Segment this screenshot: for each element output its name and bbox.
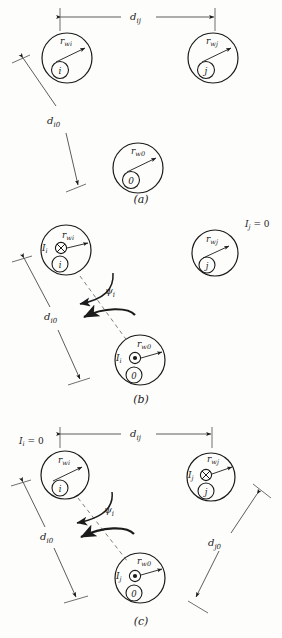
label-core-i-b: i (59, 260, 62, 270)
label-core-i-c: i (59, 484, 62, 494)
figure-conductor-geometry: dij i rwi j rwj 0 rw0 di0 (a) i (0, 0, 282, 638)
diagram-canvas: dij i rwi j rwj 0 rw0 di0 (a) i (0, 0, 282, 638)
label-core-0-b: 0 (131, 371, 137, 381)
caption-panel-a: (a) (133, 193, 148, 206)
caption-panel-b: (b) (133, 393, 149, 406)
label-core-0-a: 0 (128, 176, 134, 186)
caption-panel-c: (c) (134, 615, 149, 628)
label-core-i-a: i (59, 66, 62, 76)
canvas-background (0, 0, 282, 638)
label-core-0-c: 0 (131, 589, 137, 599)
